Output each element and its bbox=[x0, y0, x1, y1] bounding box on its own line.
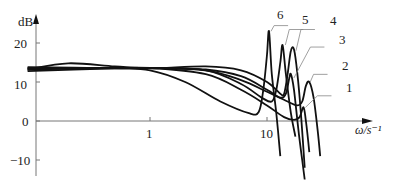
curve-6 bbox=[28, 31, 281, 156]
curve-label-1: 1 bbox=[346, 81, 353, 94]
x-tick-label-1: 1 bbox=[146, 127, 153, 140]
axes bbox=[33, 14, 373, 176]
leader-line-1 bbox=[305, 96, 317, 108]
leader-line-6 bbox=[271, 26, 274, 32]
bode-magnitude-chart bbox=[0, 0, 395, 190]
leader-line-4 bbox=[296, 30, 301, 51]
curve-label-3: 3 bbox=[339, 33, 346, 46]
curve-4 bbox=[28, 47, 305, 168]
y-tick-label-neg10: −10 bbox=[10, 154, 30, 167]
tick-marks bbox=[36, 43, 267, 160]
curve-label-6: 6 bbox=[277, 8, 284, 21]
y-tick-label-20: 20 bbox=[14, 37, 27, 50]
leader-line-2 bbox=[310, 74, 313, 82]
curve-5 bbox=[28, 45, 296, 137]
y-tick-label-0: 0 bbox=[22, 115, 29, 128]
y-tick-label-10: 10 bbox=[14, 78, 27, 91]
y-axis-label: dB bbox=[18, 15, 33, 28]
curves bbox=[28, 31, 321, 180]
curve-label-4: 4 bbox=[330, 14, 337, 27]
curve-label-2: 2 bbox=[342, 59, 349, 72]
leader-line-5 bbox=[285, 30, 289, 45]
x-axis-label: ω/s⁻¹ bbox=[355, 124, 381, 136]
curve-label-5: 5 bbox=[302, 13, 309, 26]
y-axis-arrow-icon bbox=[33, 14, 39, 24]
x-tick-label-10: 10 bbox=[260, 127, 273, 140]
